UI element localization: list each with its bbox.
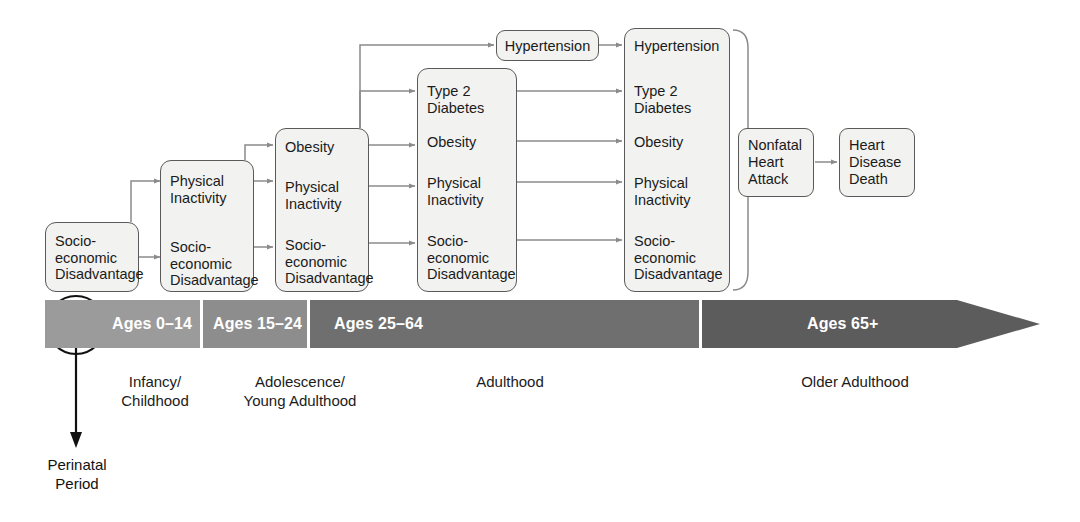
item-inactivity-adult-early: Physical Inactivity [427,175,483,208]
label-nonfatal-heart-attack: Nonfatal Heart Attack [748,137,802,188]
node-nonfatal-heart-attack: Nonfatal Heart Attack [738,128,814,197]
label-heart-disease-death: Heart Disease Death [849,137,901,188]
band-label-25-64: Ages 25–64 [334,315,423,333]
node-column-young-adult: Obesity Physical Inactivity Socio- econo… [275,128,369,292]
item-obesity-adult-late: Obesity [634,134,683,151]
item-ses-adult-late: Socio- economic Disadvantage [634,233,723,283]
band-ages-15-24: Ages 15–24 [203,300,307,348]
node-column-adult-early: Type 2 Diabetes Obesity Physical Inactiv… [417,68,517,292]
item-inactivity-adult-late: Physical Inactivity [634,175,690,208]
node-column-childhood: Socio- economic Disadvantage [45,222,139,292]
node-heart-disease-death: Heart Disease Death [839,128,915,197]
item-ses-young-adult: Socio- economic Disadvantage [285,237,374,287]
arrow-ses1-to-inactivity2 [131,181,160,222]
item-inactivity-adolescence: Physical Inactivity [170,173,226,206]
item-hypertension-standalone: Hypertension [505,38,590,54]
band-label-65-plus: Ages 65+ [807,315,879,333]
item-diabetes-adult-early: Type 2 Diabetes [427,83,484,116]
item-diabetes-adult-late: Type 2 Diabetes [634,83,691,116]
life-stage-label-adulthood: Adulthood [440,372,580,391]
perinatal-arrow-head [70,432,82,448]
item-inactivity-young-adult: Physical Inactivity [285,179,341,212]
life-stage-label-older-adulthood: Older Adulthood [760,372,950,391]
band-ages-0-14: Ages 0–14 [45,300,200,348]
item-hypertension-adult-late: Hypertension [634,38,719,55]
item-obesity-adult-early: Obesity [427,134,476,151]
diagram-canvas: Ages 0–14 Ages 15–24 Ages 25–64 Ages 65+… [0,0,1080,522]
life-stage-label-infancy: Infancy/ Childhood [95,372,215,410]
item-obesity-young-adult: Obesity [285,139,334,156]
band-ages-25-64: Ages 25–64 [310,300,699,348]
band-label-15-24: Ages 15–24 [213,315,302,333]
arrow-col3-to-diabetes4 [360,91,415,128]
item-ses-adult-early: Socio- economic Disadvantage [427,233,516,283]
node-column-adolescence: Physical Inactivity Socio- economic Disa… [160,160,254,292]
item-ses-adolescence: Socio- economic Disadvantage [170,239,259,289]
arrow-col2-to-obesity3 [245,145,273,160]
node-column-adult-late: Hypertension Type 2 Diabetes Obesity Phy… [624,28,730,292]
life-stage-label-adolescence: Adolescence/ Young Adulthood [215,372,385,410]
node-hypertension-standalone: Hypertension [496,30,599,61]
band-label-0-14: Ages 0–14 [112,315,192,333]
item-ses-childhood: Socio- economic Disadvantage [55,233,144,283]
perinatal-period-label: Perinatal Period [21,455,133,493]
